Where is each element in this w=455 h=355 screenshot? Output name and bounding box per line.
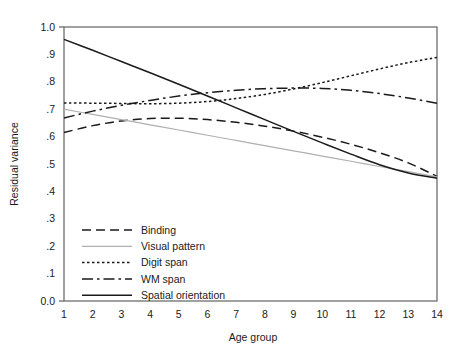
y-axis-title: Residual variance bbox=[8, 122, 20, 206]
x-axis-title: Age group bbox=[229, 331, 278, 343]
chart-container: 0.0.1.2.3.4.5.6.7.8.91.0 123456789101112… bbox=[0, 0, 455, 355]
legend-label-binding: Binding bbox=[141, 224, 176, 236]
y-tick-label: .2 bbox=[46, 240, 55, 252]
legend-label-spatial-orientation: Spatial orientation bbox=[141, 289, 225, 301]
y-tick-label: 1.0 bbox=[40, 21, 55, 33]
y-tick-label: .6 bbox=[46, 130, 55, 142]
x-tick-label: 1 bbox=[61, 308, 67, 320]
x-tick-label: 2 bbox=[90, 308, 96, 320]
x-tick-label: 10 bbox=[316, 308, 328, 320]
y-tick-label: .7 bbox=[46, 103, 55, 115]
y-tick-label: 0.0 bbox=[40, 295, 55, 307]
legend-label-wm-span: WM span bbox=[141, 273, 186, 285]
x-tick-label: 12 bbox=[374, 308, 386, 320]
residual-variance-line-chart: 0.0.1.2.3.4.5.6.7.8.91.0 123456789101112… bbox=[0, 0, 455, 355]
x-tick-label: 7 bbox=[233, 308, 239, 320]
x-tick-label: 11 bbox=[345, 308, 356, 320]
y-tick-label: .1 bbox=[46, 267, 55, 279]
legend-label-visual-pattern: Visual pattern bbox=[141, 240, 205, 252]
x-tick-label: 4 bbox=[147, 308, 153, 320]
x-tick-label: 14 bbox=[431, 308, 443, 320]
y-tick-label: .3 bbox=[46, 212, 55, 224]
y-tick-label: .8 bbox=[46, 75, 55, 87]
y-tick-label: .9 bbox=[46, 48, 55, 60]
x-tick-label: 5 bbox=[176, 308, 182, 320]
y-tick-label: .5 bbox=[46, 158, 55, 170]
x-tick-label: 3 bbox=[118, 308, 124, 320]
x-tick-label: 9 bbox=[291, 308, 297, 320]
x-tick-label: 6 bbox=[205, 308, 211, 320]
y-tick-label: .4 bbox=[46, 185, 55, 197]
legend-label-digit-span: Digit span bbox=[141, 256, 188, 268]
chart-background bbox=[0, 0, 455, 355]
x-tick-label: 13 bbox=[402, 308, 414, 320]
x-tick-label: 8 bbox=[262, 308, 268, 320]
